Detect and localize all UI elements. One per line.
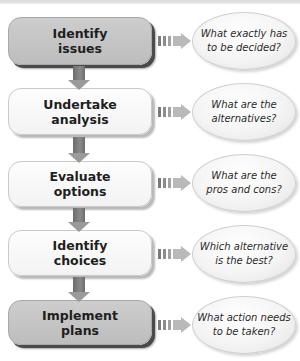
down-arrow-icon (70, 137, 88, 163)
step-undertake-analysis: Undertake analysis (8, 88, 152, 135)
question-text: What action needs to be taken? (197, 311, 291, 339)
question-bubble-3: What are the pros and cons? (192, 154, 296, 212)
question-bubble-1: What exactly has to be decided? (192, 12, 296, 70)
step-label: Identify issues (53, 26, 108, 56)
arrow-head (68, 80, 90, 90)
arrow-head (68, 153, 90, 163)
arrow-shaft (73, 208, 85, 222)
step-identify-issues: Identify issues (8, 17, 152, 65)
arrow-shaft (73, 66, 85, 80)
step-label: Implement plans (42, 308, 118, 338)
arrow-shaft (73, 137, 85, 153)
step-evaluate-options: Evaluate options (8, 161, 152, 207)
right-arrow-icon (158, 176, 192, 190)
step-identify-choices: Identify choices (8, 230, 152, 276)
question-text: What are the pros and cons? (206, 169, 281, 197)
question-bubble-2: What are the alternatives? (192, 83, 296, 141)
question-bubble-4: Which alternative is the best? (192, 225, 296, 283)
right-arrow-icon (158, 247, 192, 261)
step-label: Undertake analysis (43, 97, 117, 127)
down-arrow-icon (70, 208, 88, 232)
arrow-head (68, 292, 90, 302)
step-label: Identify choices (53, 238, 108, 268)
step-label: Evaluate options (49, 169, 110, 199)
right-arrow-icon (158, 318, 192, 332)
right-arrow-icon (158, 105, 192, 119)
down-arrow-icon (70, 277, 88, 302)
question-text: What are the alternatives? (211, 98, 276, 126)
right-arrow-icon (158, 34, 192, 48)
question-text: What exactly has to be decided? (201, 27, 288, 55)
question-bubble-5: What action needs to be taken? (192, 296, 296, 354)
question-text: Which alternative is the best? (200, 240, 288, 268)
down-arrow-icon (70, 66, 88, 90)
arrow-head (68, 222, 90, 232)
top-band (0, 0, 300, 4)
step-implement-plans: Implement plans (8, 300, 152, 345)
arrow-shaft (73, 277, 85, 292)
